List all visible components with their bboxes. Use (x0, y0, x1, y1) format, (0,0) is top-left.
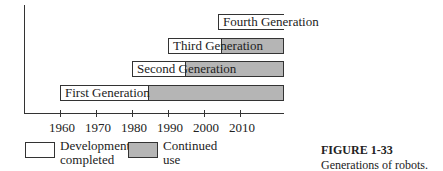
figure-label: FIGURE 1-33 (321, 143, 428, 158)
legend-swatch-development (25, 142, 55, 158)
x-tick (132, 110, 133, 117)
x-tick-label: 1970 (78, 120, 118, 136)
y-axis-line (24, 5, 25, 113)
figure-caption: FIGURE 1-33 Generations of robots. (321, 143, 428, 171)
legend-label-development: Development completed (60, 139, 130, 167)
x-tick (168, 110, 169, 117)
x-tick-label: 1960 (42, 120, 82, 136)
x-tick-label: 2000 (186, 120, 226, 136)
x-tick-label: 1990 (150, 120, 190, 136)
legend-label-continued: Continued use (163, 139, 217, 167)
x-tick-label: 1980 (114, 120, 154, 136)
x-tick (60, 110, 61, 117)
bar-label-first: First Generation (60, 85, 150, 101)
x-tick (240, 110, 241, 117)
x-tick-label: 2010 (222, 120, 262, 136)
bar-first-continued (149, 85, 284, 101)
bar-label-fourth: Fourth Generation (218, 14, 319, 30)
bar-label-third: Third Generation (168, 38, 263, 54)
figure-title: Generations of robots. (321, 158, 428, 171)
x-axis-line (24, 113, 284, 114)
x-tick (204, 110, 205, 117)
x-tick (96, 110, 97, 117)
bar-label-second: Second Generation (132, 61, 236, 77)
legend-swatch-continued (128, 142, 158, 158)
